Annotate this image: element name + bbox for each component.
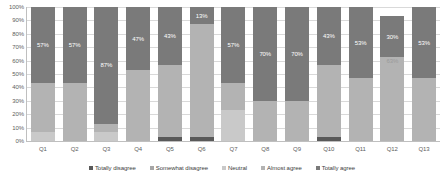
y-axis-tick-label: 20% [0, 111, 24, 117]
bar-segment[interactable] [190, 24, 214, 137]
bar-segment[interactable]: 53% [412, 7, 436, 78]
y-axis-tick-label: 80% [0, 31, 24, 37]
bar-segment[interactable]: 43% [158, 7, 182, 65]
bar-segment[interactable]: 53% [349, 7, 373, 78]
bar-segment[interactable]: 57% [221, 7, 245, 83]
bar-column[interactable]: 47% [126, 7, 150, 141]
bar-segment[interactable] [190, 137, 214, 141]
bar-column[interactable]: 87% [94, 7, 118, 141]
legend-item-label: Totally agree [322, 165, 355, 172]
bar-column[interactable]: 43% [158, 7, 182, 141]
stacked-bar-chart: 100%90%80%70%60%50%40%30%20%10%0% 57%57%… [0, 0, 444, 177]
bar-segment[interactable]: 13% [190, 7, 214, 24]
bar-segment-value-label: 13% [190, 13, 214, 19]
bar-segment[interactable] [63, 83, 87, 141]
bar-segment[interactable] [158, 65, 182, 137]
bar-segment[interactable] [126, 70, 150, 141]
bar-segment[interactable] [31, 83, 55, 131]
x-axis-tick-label: Q9 [285, 143, 309, 155]
y-axis-tick-label: 70% [0, 44, 24, 50]
bar-segment[interactable] [158, 137, 182, 141]
bar-column[interactable]: 70% [253, 7, 277, 141]
bar-column[interactable]: 63%30% [380, 7, 404, 141]
legend-item[interactable]: Somewhat disagree [150, 165, 208, 172]
bar-segment[interactable] [94, 124, 118, 132]
x-axis-tick-label: Q7 [221, 143, 245, 155]
bar-segment[interactable] [94, 132, 118, 141]
legend-swatch-icon [316, 166, 320, 170]
bar-segment-value-label: 53% [349, 40, 373, 46]
bar-segment[interactable]: 87% [94, 7, 118, 124]
bar-segment-value-label: 47% [126, 36, 150, 42]
x-axis-tick-label: Q3 [94, 143, 118, 155]
bar-segment[interactable] [31, 132, 55, 141]
bar-column[interactable]: 53% [412, 7, 436, 141]
x-axis-tick-label: Q6 [190, 143, 214, 155]
bar-column[interactable]: 57% [63, 7, 87, 141]
bar-segment[interactable]: 30% [380, 16, 404, 56]
legend-swatch-icon [89, 166, 93, 170]
y-axis-tick-label: 30% [0, 98, 24, 104]
legend-item[interactable]: Almost agree [261, 165, 302, 172]
bar-segment[interactable]: 57% [31, 7, 55, 83]
y-axis-tick-label: 40% [0, 84, 24, 90]
bar-segment[interactable]: 47% [126, 7, 150, 70]
bar-segment-value-label: 70% [285, 51, 309, 57]
bar-segment[interactable]: 43% [317, 7, 341, 65]
bar-segment[interactable] [349, 78, 373, 141]
legend-item-label: Totally disagree [95, 165, 136, 172]
bar-column[interactable]: 13% [190, 7, 214, 141]
chart-legend: Totally disagreeSomewhat disagreeNeutral… [0, 162, 444, 174]
x-axis-tick-label: Q13 [412, 143, 436, 155]
plot-area: 57%57%87%47%43%13%57%70%70%43%53%63%30%5… [27, 7, 440, 141]
x-axis-tick-label: Q5 [158, 143, 182, 155]
bar-segment[interactable] [285, 101, 309, 141]
x-axis-tick-label: Q10 [317, 143, 341, 155]
bar-segment-value-label: 43% [158, 33, 182, 39]
bar-column[interactable]: 43% [317, 7, 341, 141]
y-axis-tick-label: 100% [0, 4, 24, 10]
y-axis-tick-label: 60% [0, 58, 24, 64]
legend-swatch-icon [150, 166, 154, 170]
y-axis-tick-label: 0% [0, 138, 24, 144]
x-axis-tick-label: Q1 [31, 143, 55, 155]
bar-segment-value-label: 30% [380, 34, 404, 40]
bar-segment-value-label: 87% [94, 62, 118, 68]
bar-segment[interactable] [317, 65, 341, 137]
x-axis-tick-label: Q2 [63, 143, 87, 155]
x-axis-tick-label: Q12 [380, 143, 404, 155]
legend-item-label: Somewhat disagree [156, 165, 208, 172]
x-axis-tick-label: Q11 [349, 143, 373, 155]
bar-segment[interactable] [253, 101, 277, 141]
bar-segment[interactable] [317, 137, 341, 141]
bar-column[interactable]: 70% [285, 7, 309, 141]
bar-segment-value-label: 57% [221, 42, 245, 48]
legend-swatch-icon [222, 166, 226, 170]
y-axis: 100%90%80%70%60%50%40%30%20%10%0% [0, 7, 24, 141]
bars-container: 57%57%87%47%43%13%57%70%70%43%53%63%30%5… [27, 7, 440, 141]
legend-item[interactable]: Totally agree [316, 165, 355, 172]
bar-segment[interactable] [221, 110, 245, 141]
gridline [27, 141, 440, 142]
bar-segment-value-label: 57% [31, 42, 55, 48]
bar-segment[interactable]: 70% [285, 7, 309, 101]
legend-item-label: Almost agree [267, 165, 302, 172]
x-axis-tick-label: Q8 [253, 143, 277, 155]
bar-column[interactable]: 57% [221, 7, 245, 141]
bar-column[interactable]: 57% [31, 7, 55, 141]
y-axis-tick-label: 90% [0, 17, 24, 23]
bar-segment[interactable]: 63% [380, 57, 404, 141]
bar-segment[interactable]: 57% [63, 7, 87, 83]
bar-segment[interactable] [412, 78, 436, 141]
bar-segment-value-label: 70% [253, 51, 277, 57]
bar-segment[interactable]: 70% [253, 7, 277, 101]
legend-item[interactable]: Neutral [222, 165, 247, 172]
legend-swatch-icon [261, 166, 265, 170]
bar-column[interactable]: 53% [349, 7, 373, 141]
bar-segment-value-label: 43% [317, 33, 341, 39]
y-axis-tick-label: 10% [0, 125, 24, 131]
legend-item[interactable]: Totally disagree [89, 165, 136, 172]
bar-segment[interactable] [221, 83, 245, 110]
bar-segment-value-label: 63% [380, 58, 404, 64]
legend-item-label: Neutral [228, 165, 247, 172]
